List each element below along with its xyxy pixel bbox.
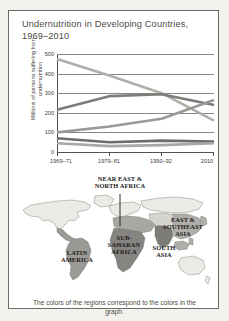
region-australia <box>178 256 205 275</box>
x-tick-2 <box>161 153 162 156</box>
map-label-near-east-north-africa: NEAR EAST & NORTH AFRICA <box>65 175 175 189</box>
y-tick-label-100: 100 <box>45 129 54 135</box>
x-tick-0 <box>57 153 58 156</box>
figure-title: Undernutrition in Developing Countries, … <box>22 19 192 42</box>
x-tick-label-2: 1990–92 <box>150 158 172 164</box>
figure-caption: The colors of the regions correspond to … <box>23 299 206 316</box>
region-north-asia <box>141 197 203 213</box>
map-label-sub-saharan-africa: SUB- SAHARAN AFRICA <box>101 234 147 255</box>
y-tick-label-0: 0 <box>51 149 54 155</box>
x-tick-3 <box>213 153 214 156</box>
region-greenland <box>94 195 114 207</box>
y-axis-label: Millions of persons suffering from under… <box>30 35 44 123</box>
y-tick-label-200: 200 <box>45 110 54 116</box>
series-line-4 <box>57 143 214 146</box>
y-tick-label-300: 300 <box>45 90 54 96</box>
y-tick-label-500: 500 <box>45 51 54 57</box>
region-north-america <box>23 200 91 229</box>
x-tick-label-3: 2010 <box>201 158 213 164</box>
map-label-east-southeast-asia: EAST & SOUTHEAST ASIA <box>155 216 211 237</box>
map-label-latin-america: LATIN AMERICA <box>51 249 103 263</box>
region-philippines <box>189 238 193 245</box>
region-europe <box>109 202 141 217</box>
figure-root: Undernutrition in Developing Countries, … <box>0 0 229 321</box>
y-tick-label-400: 400 <box>45 71 54 77</box>
x-tick-label-0: 1969–71 <box>50 158 72 164</box>
series-line-0 <box>57 59 214 121</box>
series-container <box>57 54 214 153</box>
line-chart: Millions of persons suffering from under… <box>14 44 215 172</box>
x-tick-label-1: 1979–81 <box>98 158 120 164</box>
region-new-zealand <box>205 276 210 284</box>
figure-card: Undernutrition in Developing Countries, … <box>8 10 219 309</box>
x-tick-1 <box>109 153 110 156</box>
series-line-3 <box>57 138 214 142</box>
world-map: NEAR EAST & NORTH AFRICA EAST & SOUTHEAS… <box>17 176 212 296</box>
plot-area: 500 400 300 200 100 0 1969–71 1979–81 19… <box>57 54 214 152</box>
map-label-south-asia: SOUTH ASIA <box>145 244 183 258</box>
region-central-america <box>57 228 75 242</box>
